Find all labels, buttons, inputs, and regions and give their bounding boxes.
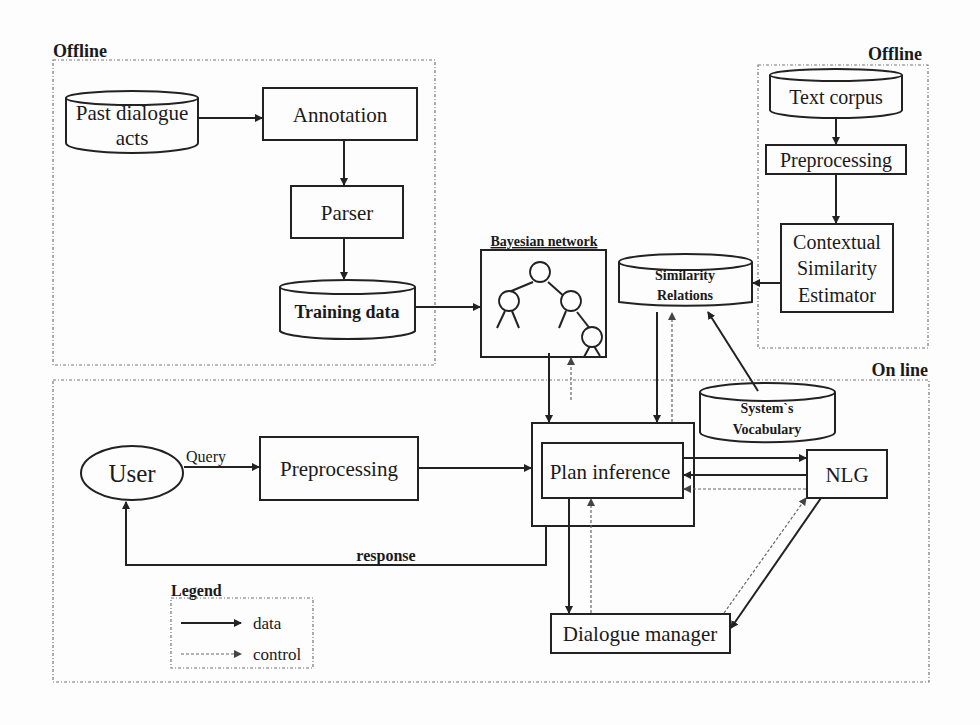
bayesian-network-box: Bayesian network xyxy=(481,234,606,357)
cse-line2: Similarity xyxy=(797,257,877,280)
legend-data-label: data xyxy=(253,614,282,633)
past-dialogue-acts-line1: Past dialogue xyxy=(76,101,189,125)
edge-nlg-to-dialogue xyxy=(731,498,821,628)
contextual-similarity-estimator-box: Contextual Similarity Estimator xyxy=(781,224,893,312)
user-label: User xyxy=(108,460,156,487)
query-label: Query xyxy=(186,448,226,466)
edge-vocab-to-similarity xyxy=(708,312,758,391)
nlg-label: NLG xyxy=(825,463,868,487)
online-label: On line xyxy=(871,360,928,380)
preprocessing-online-box: Preprocessing xyxy=(260,437,418,500)
similarity-relations-line1: Similarity xyxy=(655,268,715,283)
preprocessing-offline-box: Preprocessing xyxy=(766,145,906,174)
training-data-store: Training data xyxy=(280,280,415,339)
text-corpus-label: Text corpus xyxy=(789,86,883,109)
past-dialogue-acts-line2: acts xyxy=(116,126,149,150)
bayesian-network-graph-icon xyxy=(497,262,602,357)
dialogue-manager-label: Dialogue manager xyxy=(563,622,718,646)
legend-control-label: control xyxy=(253,645,301,664)
offline-left-label: Offline xyxy=(53,41,107,61)
dialogue-manager-box: Dialogue manager xyxy=(551,614,730,653)
past-dialogue-acts-store: Past dialogue acts xyxy=(66,91,198,153)
parser-label: Parser xyxy=(321,201,373,225)
offline-right-label: Offline xyxy=(868,44,922,64)
plan-inference-label: Plan inference xyxy=(550,460,671,484)
annotation-label: Annotation xyxy=(293,103,388,127)
bayesian-network-label: Bayesian network xyxy=(491,234,598,249)
legend: Legend data control xyxy=(171,582,313,668)
nlg-box: NLG xyxy=(807,450,887,498)
cse-line1: Contextual xyxy=(793,231,881,253)
systems-vocabulary-store: System`s Vocabulary xyxy=(700,383,835,442)
response-label: response xyxy=(356,547,415,565)
edge-plan-to-user-response xyxy=(126,502,546,565)
annotation-box: Annotation xyxy=(263,88,417,140)
legend-title: Legend xyxy=(171,582,222,600)
user-node: User xyxy=(81,446,183,500)
ctrl-dialogue-to-nlg xyxy=(724,498,806,613)
similarity-relations-store: Similarity Relations xyxy=(619,254,752,306)
cse-line3: Estimator xyxy=(798,284,876,306)
plan-inference-module: Plan inference xyxy=(532,423,694,526)
preprocessing-online-label: Preprocessing xyxy=(280,457,398,481)
edges: Query response xyxy=(126,118,836,628)
systems-vocabulary-line1: System`s xyxy=(741,401,794,416)
parser-box: Parser xyxy=(291,186,403,238)
training-data-label: Training data xyxy=(294,302,399,322)
preprocessing-offline-label: Preprocessing xyxy=(780,149,892,172)
systems-vocabulary-line2: Vocabulary xyxy=(733,422,802,437)
text-corpus-store: Text corpus xyxy=(770,69,902,118)
architecture-diagram: Offline Offline On line Past dialogue ac… xyxy=(0,0,980,725)
similarity-relations-line2: Relations xyxy=(657,288,714,303)
